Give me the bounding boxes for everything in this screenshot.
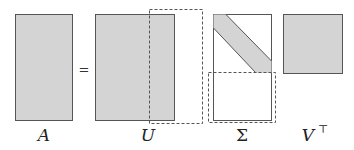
label-sigma: Σ [236,125,248,145]
label-u: U [141,125,156,145]
matrix-a [16,15,73,121]
svd-diagram: = A U Σ V ⊤ [0,0,354,150]
matrix-vt [284,15,343,74]
equals-sign: = [79,62,90,77]
matrix-u [96,15,175,121]
label-vt-superscript: ⊤ [318,123,328,136]
label-a: A [36,125,50,145]
label-vt: V [302,125,316,145]
